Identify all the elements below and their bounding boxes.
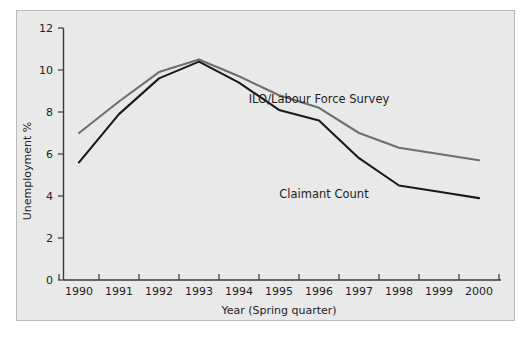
x-ticklabel-1996: 1996 xyxy=(305,285,333,298)
y-ticklabel-6: 6 xyxy=(46,148,53,161)
y-axis-title: Unemployment % xyxy=(21,122,34,221)
x-ticklabel-1992: 1992 xyxy=(145,285,173,298)
series-line-claimant xyxy=(79,62,479,199)
y-ticklabel-10: 10 xyxy=(39,64,53,77)
x-ticklabel-1994: 1994 xyxy=(225,285,253,298)
series-annotation-claimant: Claimant Count xyxy=(279,187,369,201)
y-ticklabel-12: 12 xyxy=(39,22,53,35)
y-ticklabel-0: 0 xyxy=(46,274,53,287)
x-ticklabel-1990: 1990 xyxy=(65,285,93,298)
y-ticklabel-8: 8 xyxy=(46,106,53,119)
x-ticklabel-1993: 1993 xyxy=(185,285,213,298)
chart-figure: 12 10 8 6 4 2 0 Unemployment % 1990 1991… xyxy=(16,10,515,321)
x-ticklabel-1997: 1997 xyxy=(345,285,373,298)
x-ticklabel-1998: 1998 xyxy=(385,285,413,298)
x-ticklabel-1995: 1995 xyxy=(265,285,293,298)
x-ticklabel-2000: 2000 xyxy=(465,285,493,298)
x-ticklabel-1991: 1991 xyxy=(105,285,133,298)
y-ticklabel-4: 4 xyxy=(46,190,53,203)
x-ticklabel-1999: 1999 xyxy=(425,285,453,298)
y-ticklabel-2: 2 xyxy=(46,232,53,245)
series-annotation-ilo: ILO/Labour Force Survey xyxy=(249,92,390,106)
line-chart-plot: 12 10 8 6 4 2 0 Unemployment % 1990 1991… xyxy=(17,11,516,322)
x-axis-title: Year (Spring quarter) xyxy=(220,304,336,317)
